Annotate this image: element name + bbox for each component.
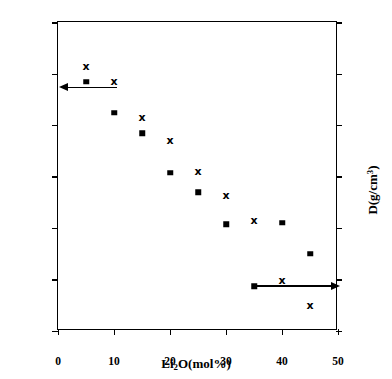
x-axis-title: Li2O(mol%) — [0, 356, 392, 372]
data-point-vm — [111, 110, 117, 116]
x-tick — [282, 329, 283, 335]
right-axis-arrow-head-icon — [331, 282, 340, 290]
data-point-vm — [223, 221, 229, 227]
y-left-tick — [52, 125, 58, 126]
scatter-chart-figure: 35 40 45 50 55 60 65 5.3 5.5 5.7 5.9 6.1… — [0, 0, 392, 379]
left-axis-arrow-line — [68, 87, 117, 89]
x-axis-title-text: Li2O(mol%) — [161, 356, 230, 371]
data-point-density: x — [250, 216, 259, 225]
data-point-density: x — [166, 136, 175, 145]
y-left-tick — [52, 74, 58, 75]
y-left-tick — [52, 279, 58, 280]
plot-area: 35 40 45 50 55 60 65 5.3 5.5 5.7 5.9 6.1… — [57, 21, 337, 330]
data-point-density: x — [82, 61, 91, 70]
x-tick — [226, 329, 227, 335]
left-axis-arrow-head-icon — [59, 83, 68, 91]
data-point-density: x — [110, 77, 119, 86]
data-point-density: x — [306, 301, 315, 310]
y-right-tick — [336, 228, 342, 229]
y-right-tick — [336, 74, 342, 75]
data-point-density: x — [138, 113, 147, 122]
right-axis-arrow-line — [256, 285, 332, 287]
y-left-tick — [52, 228, 58, 229]
y-left-tick — [52, 176, 58, 177]
x-tick — [170, 329, 171, 335]
data-point-vm — [279, 220, 285, 226]
data-point-density: x — [278, 275, 287, 284]
y-right-tick — [336, 176, 342, 177]
x-tick — [338, 329, 339, 335]
data-point-vm — [83, 79, 89, 85]
y-right-axis-title-text: D(g/cm3) — [365, 165, 380, 214]
data-point-vm — [167, 170, 173, 176]
data-point-vm — [307, 251, 313, 257]
y-right-tick — [336, 125, 342, 126]
data-point-vm — [139, 131, 145, 137]
data-point-density: x — [222, 190, 231, 199]
x-tick — [58, 329, 59, 335]
y-left-tick — [52, 22, 58, 23]
x-tick — [114, 329, 115, 335]
data-point-vm — [195, 189, 201, 195]
data-point-density: x — [194, 167, 203, 176]
y-right-tick — [336, 279, 342, 280]
y-right-tick — [336, 22, 342, 23]
y-right-axis-title: D(g/cm3) — [365, 165, 381, 214]
